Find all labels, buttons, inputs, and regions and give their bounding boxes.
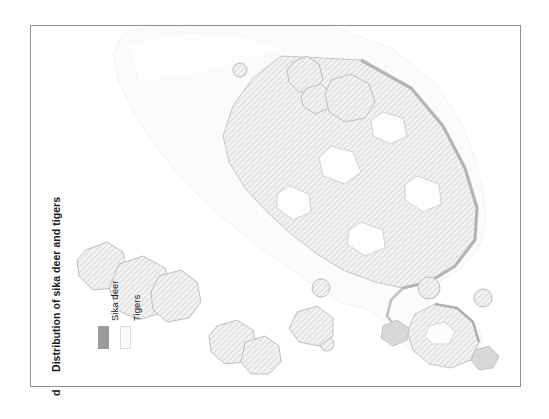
panel-title: Distribution of sika deer and tigers [50, 197, 62, 385]
legend-swatch-icon-sika-deer [98, 326, 109, 349]
caption-block: d Distribution of sika deer and tigers [34, 30, 74, 382]
map-legend: Sika deer Tigers [96, 283, 146, 368]
figure-panel: d Distribution of sika deer and tigers S… [0, 0, 549, 419]
panel-letter: d [50, 389, 62, 396]
legend-label-sika-deer: Sika deer [109, 280, 120, 321]
legend-item-sika-deer: Sika deer [98, 283, 122, 373]
legend-item-tigers: Tigers [120, 283, 144, 373]
legend-swatch-icon-tigers [120, 326, 131, 349]
legend-label-tigers: Tigers [131, 295, 142, 321]
